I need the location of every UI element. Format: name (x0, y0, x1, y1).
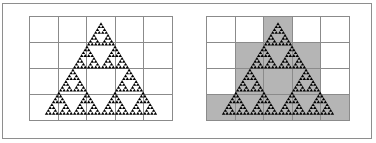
grid-cell-r2-c5 (144, 43, 173, 69)
grid-cell-r4-c2 (236, 95, 265, 121)
grid-cell-r2-c4 (116, 43, 145, 69)
grid-cell-r1-c3 (87, 17, 116, 43)
grid-cell-r4-c5 (144, 95, 173, 121)
grid-cell-r1-c4 (293, 17, 322, 43)
grid-cell-r2-c1 (207, 43, 236, 69)
grid-cell-r4-c1 (207, 95, 236, 121)
grid-cell-r1-c1 (30, 17, 59, 43)
grid-cell-r2-c2 (236, 43, 265, 69)
grid-cell-r3-c2 (59, 69, 88, 95)
grid-cell-r3-c4 (293, 69, 322, 95)
grid-cell-r4-c5 (321, 95, 350, 121)
figure-root (0, 0, 376, 143)
grid-cell-r1-c5 (144, 17, 173, 43)
grid-cell-r3-c5 (144, 69, 173, 95)
panel-right (206, 16, 350, 121)
grid-cell-r1-c2 (236, 17, 265, 43)
grid-cell-r1-c5 (321, 17, 350, 43)
grid-cell-r2-c3 (87, 43, 116, 69)
grid-cell-r4-c2 (59, 95, 88, 121)
grid-cell-r1-c4 (116, 17, 145, 43)
grid-cell-r3-c2 (236, 69, 265, 95)
grid-cell-r1-c3 (264, 17, 293, 43)
grid-cell-r3-c3 (87, 69, 116, 95)
grid-cell-r3-c1 (207, 69, 236, 95)
panel-right-grid (206, 16, 350, 121)
grid-cell-r2-c1 (30, 43, 59, 69)
grid-cell-r3-c1 (30, 69, 59, 95)
grid-cell-r2-c4 (293, 43, 322, 69)
grid-cell-r3-c5 (321, 69, 350, 95)
grid-cell-r2-c3 (264, 43, 293, 69)
grid-cell-r3-c4 (116, 69, 145, 95)
grid-cell-r4-c1 (30, 95, 59, 121)
grid-cell-r4-c4 (116, 95, 145, 121)
grid-cell-r3-c3 (264, 69, 293, 95)
grid-cell-r1-c2 (59, 17, 88, 43)
grid-cell-r4-c3 (87, 95, 116, 121)
panel-left (29, 16, 173, 121)
grid-cell-r2-c2 (59, 43, 88, 69)
grid-cell-r1-c1 (207, 17, 236, 43)
grid-cell-r2-c5 (321, 43, 350, 69)
grid-cell-r4-c3 (264, 95, 293, 121)
grid-cell-r4-c4 (293, 95, 322, 121)
panel-left-grid (29, 16, 173, 121)
